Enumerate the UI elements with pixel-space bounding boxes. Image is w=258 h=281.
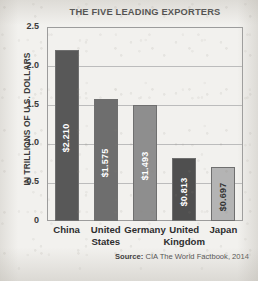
- x-category-label-line: Japan: [195, 224, 251, 236]
- bar: $1.575: [94, 99, 118, 221]
- chart-title: THE FIVE LEADING EXPORTERS: [47, 7, 243, 17]
- y-tick-label: 1.0: [0, 138, 39, 147]
- bar-value-label: $0.813: [179, 178, 189, 207]
- source-label: Source:: [115, 252, 143, 261]
- y-tick-label: 2.0: [0, 61, 39, 70]
- y-tick-label: 1.5: [0, 100, 39, 109]
- bar: $2.210: [55, 50, 79, 221]
- y-tick-label: 0.5: [0, 177, 39, 186]
- y-tick-label: 2.5: [0, 22, 39, 31]
- bar-value-label: $0.697: [218, 183, 228, 212]
- bar-value-label: $2.210: [62, 124, 72, 153]
- bars-layer: $2.210$1.575$1.493$0.813$0.697: [47, 27, 243, 221]
- bar-value-label: $1.493: [140, 152, 150, 181]
- source-text: CIA The World Factbook, 2014: [145, 252, 249, 261]
- x-category-label-line: States: [78, 236, 134, 248]
- source-line: Source: CIA The World Factbook, 2014: [47, 252, 249, 261]
- bar: $0.813: [172, 158, 196, 221]
- y-tick-label: 0: [0, 216, 39, 225]
- x-category-label-line: Kingdom: [156, 236, 212, 248]
- bar-value-label: $1.575: [101, 149, 111, 178]
- bar: $1.493: [133, 105, 157, 221]
- x-category-label: Japan: [195, 224, 251, 236]
- bar: $0.697: [211, 167, 235, 221]
- bar-chart-figure: THE FIVE LEADING EXPORTERS IN TRILLIONS …: [0, 0, 258, 281]
